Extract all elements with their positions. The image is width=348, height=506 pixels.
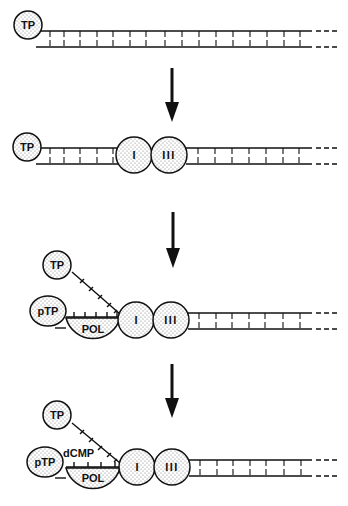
pol-label: POL: [82, 472, 105, 484]
stage-1: TP: [14, 11, 340, 47]
ptp-label: pTP: [35, 456, 56, 468]
protein-iii: III: [154, 449, 190, 485]
down-arrow: [165, 68, 179, 122]
protein-iii: III: [151, 137, 187, 173]
terminal-protein: TP: [13, 133, 41, 161]
ptp-label: pTP: [38, 305, 59, 317]
pol-label: POL: [82, 323, 105, 335]
tp-label: TP: [50, 409, 64, 421]
replication-diagram: TP: [0, 0, 348, 506]
tp-label: TP: [20, 141, 34, 153]
tp-label: TP: [50, 259, 64, 271]
protein-iii-label: III: [162, 149, 176, 161]
protein-i-label: I: [132, 149, 135, 161]
dna-duplex: [36, 148, 340, 164]
dna-duplex: [36, 31, 340, 47]
terminal-protein: TP: [43, 251, 71, 279]
precursor-terminal-protein: pTP: [27, 447, 63, 477]
protein-i-label: I: [134, 314, 137, 326]
dcmp-label: dCMP: [63, 447, 94, 459]
terminal-protein: TP: [14, 11, 42, 39]
tp-label: TP: [21, 19, 35, 31]
polymerase: POL: [66, 318, 120, 339]
down-arrow: [166, 212, 180, 268]
protein-iii-label: III: [165, 461, 179, 473]
protein-i: I: [119, 449, 155, 485]
down-arrow: [165, 364, 179, 418]
stage-3: POL pTP TP I III: [30, 251, 340, 339]
polymerase: POL: [66, 468, 120, 489]
stage-2: TP I III: [13, 133, 340, 173]
protein-i-label: I: [135, 461, 138, 473]
stage-4: POL pTP dCMP TP I III: [27, 401, 340, 489]
protein-i: I: [116, 137, 152, 173]
protein-iii-label: III: [164, 314, 178, 326]
protein-i: I: [118, 302, 154, 338]
terminal-protein: TP: [43, 401, 71, 429]
protein-iii: III: [153, 302, 189, 338]
precursor-terminal-protein: pTP: [30, 296, 66, 326]
